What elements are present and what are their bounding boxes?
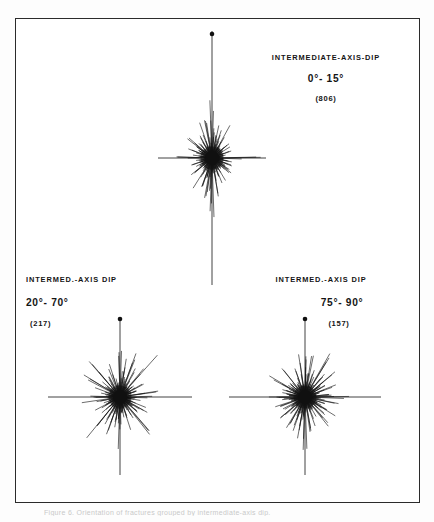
panel-range-bottom-left: 20°- 70° <box>26 298 176 309</box>
panel-title-bottom-right: INTERMED.-AXIS DIP <box>236 276 406 284</box>
panel-label-top: INTERMEDIATE-AXIS-DIP 0°- 15° (806) <box>256 54 396 103</box>
panel-label-bottom-right: INTERMED.-AXIS DIP 75°- 90° (157) <box>236 276 406 328</box>
panel-title-top: INTERMEDIATE-AXIS-DIP <box>256 54 396 62</box>
panel-count-bottom-left: (217) <box>30 320 176 328</box>
figure-caption: Figure 6. Orientation of fractures group… <box>44 509 424 516</box>
panel-count-top: (806) <box>256 95 396 103</box>
panel-title-bottom-left: INTERMED.-AXIS DIP <box>26 276 176 284</box>
panel-range-top: 0°- 15° <box>256 74 396 85</box>
panel-label-bottom-left: INTERMED.-AXIS DIP 20°- 70° (217) <box>26 276 176 328</box>
panel-range-bottom-right: 75°- 90° <box>278 298 406 309</box>
panel-count-bottom-right: (157) <box>272 320 406 328</box>
figure-root: INTERMEDIATE-AXIS-DIP 0°- 15° (806) INTE… <box>0 0 434 522</box>
